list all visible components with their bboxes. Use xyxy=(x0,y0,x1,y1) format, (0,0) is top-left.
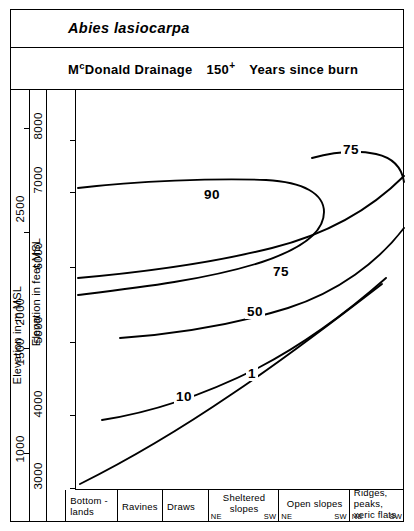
x-category-draws[interactable]: Draws xyxy=(163,490,209,522)
x-axis-category-strip: Bottom - lands Ravines Draws Sheltered s… xyxy=(10,490,404,522)
contour-line-10 xyxy=(102,278,386,420)
category-strip-axis-spacer xyxy=(10,490,66,522)
contour-label-75-main: 75 xyxy=(271,265,291,279)
contour-label-50: 50 xyxy=(245,305,265,319)
contour-line-1 xyxy=(80,284,382,484)
contour-label-1: 1 xyxy=(246,367,258,381)
x-category-bottom-lands[interactable]: Bottom - lands xyxy=(66,490,118,522)
aspect-label-sw: SW xyxy=(390,512,402,521)
species-title-row: Abies lasiocarpa xyxy=(10,9,404,48)
x-category-label: Sheltered slopes xyxy=(213,492,278,514)
x-category-ridges-peaks-xeric-flats[interactable]: Ridges, peaks, xeric flats NE SW xyxy=(350,490,404,522)
y-tick-feet-6000: 6000 xyxy=(32,242,44,270)
figure-canvas: Abies lasiocarpa McDonald Drainage150+Ye… xyxy=(0,0,414,531)
y-axis-feet-column: Elevation in feet MSL 8000 7000 6000 500… xyxy=(30,90,46,522)
subtitle-drainage: Donald Drainage xyxy=(85,62,193,77)
x-category-ravines[interactable]: Ravines xyxy=(118,490,163,522)
y-tick-meters-1000: 1000 xyxy=(14,435,26,463)
subtitle-plus: + xyxy=(229,60,235,71)
x-category-label: Open slopes xyxy=(283,498,348,509)
aspect-label-ne: NE xyxy=(211,512,222,521)
aspect-label-sw: SW xyxy=(334,512,346,521)
y-tick-feet-4000: 4000 xyxy=(32,390,44,418)
study-subtitle-row: McDonald Drainage150+Years since burn xyxy=(10,48,404,90)
species-name: Abies lasiocarpa xyxy=(68,20,190,36)
study-subtitle: McDonald Drainage150+Years since burn xyxy=(68,60,358,77)
y-axis-meters-column: Elevation in m MSL 2500 2000 1500 1000 xyxy=(10,90,30,522)
x-category-open-slopes[interactable]: Open slopes NE SW xyxy=(279,490,349,522)
contour-label-90: 90 xyxy=(202,188,222,202)
aspect-label-sw: SW xyxy=(264,512,276,521)
x-category-label: Ravines xyxy=(122,501,162,512)
aspect-label-ne: NE xyxy=(352,512,363,521)
subtitle-tail: Years since burn xyxy=(249,62,358,77)
contour-label-75-upper: 75 xyxy=(341,143,361,157)
y-tick-feet-8000: 8000 xyxy=(32,112,44,140)
x-category-label: Draws xyxy=(167,501,208,512)
x-category-sheltered-slopes[interactable]: Sheltered slopes NE SW xyxy=(209,490,279,522)
y-tick-meters-1500: 1500 xyxy=(14,338,26,366)
y-tick-meters-2500: 2500 xyxy=(14,195,26,223)
y-tick-feet-3000: 3000 xyxy=(32,462,44,490)
y-tick-feet-5000: 5000 xyxy=(32,316,44,344)
aspect-label-ne: NE xyxy=(281,512,292,521)
x-category-label: Bottom - lands xyxy=(70,495,117,517)
y-tick-meters-2000: 2000 xyxy=(14,298,26,326)
axis-column-divider xyxy=(46,90,47,522)
contour-label-10: 10 xyxy=(174,390,194,404)
contour-line-75-main xyxy=(78,176,404,278)
subtitle-prefix: M xyxy=(68,62,79,77)
y-tick-feet-7000: 7000 xyxy=(32,166,44,194)
subtitle-years-value: 150 xyxy=(207,62,230,77)
